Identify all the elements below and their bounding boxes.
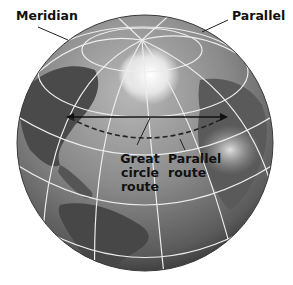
globe-graphic bbox=[0, 0, 293, 285]
parallel-label: Parallel bbox=[232, 9, 285, 23]
meridian-label: Meridian bbox=[16, 9, 78, 23]
parallel-route-label-line1: Parallel bbox=[168, 152, 221, 166]
parallel-route-label: Parallel route bbox=[168, 152, 221, 180]
great-circle-label-line1: Great bbox=[112, 152, 168, 166]
great-circle-label-line3: route bbox=[112, 180, 168, 194]
parallel-leader-line bbox=[202, 20, 228, 32]
arctic-ice bbox=[120, 45, 180, 105]
globe-diagram: Meridian Parallel Great circle route Par… bbox=[0, 0, 293, 285]
great-circle-route-label: Great circle route bbox=[112, 152, 168, 194]
great-circle-label-line2: circle bbox=[112, 166, 168, 180]
meridian-leader-line bbox=[38, 27, 68, 40]
parallel-route-label-line2: route bbox=[168, 166, 221, 180]
